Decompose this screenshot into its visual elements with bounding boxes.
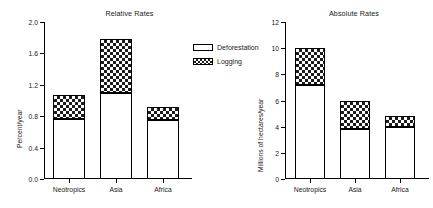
legend-swatch-deforestation-icon [193, 44, 213, 51]
y-axis-tick-label: 1.2 [29, 81, 38, 88]
y-axis-line-right [285, 22, 286, 179]
y-axis-tick-label: 2 [275, 149, 279, 156]
x-axis-category-label: Neotropics [294, 186, 327, 193]
y-axis-tick [281, 127, 285, 128]
legend-label-deforestation: Deforestation [217, 44, 259, 51]
bar-segment-logging [295, 48, 325, 85]
y-axis-line-left [44, 22, 45, 179]
bar-segment-logging [340, 101, 370, 130]
bar-segment-deforestation [53, 119, 85, 179]
bar-segment-deforestation [385, 127, 415, 179]
x-axis-tick [163, 179, 164, 183]
plot-area-right: 024681012NeotropicsAsiaAfrica [285, 22, 425, 179]
legend-label-logging: Logging [217, 58, 242, 65]
chart-title-left: Relative Rates [0, 9, 237, 18]
chart-panel-absolute-rates: Absolute Rates Millions of hectares/year… [215, 0, 433, 208]
y-axis-tick-label: 0 [275, 176, 279, 183]
bar-africa [147, 107, 179, 179]
x-axis-category-label: Africa [391, 186, 408, 193]
x-axis-category-label: Africa [154, 186, 171, 193]
x-axis-tick [116, 179, 117, 183]
y-axis-tick [281, 22, 285, 23]
y-axis-tick-label: 0.8 [29, 113, 38, 120]
figure-stacked-bar-charts: Relative Rates Percent/year 0.00.40.81.2… [0, 0, 433, 208]
bar-segment-logging [385, 116, 415, 127]
chart-panel-relative-rates: Relative Rates Percent/year 0.00.40.81.2… [0, 0, 215, 208]
y-axis-tick [40, 116, 44, 117]
y-axis-tick [40, 22, 44, 23]
chart-legend: Deforestation Logging [193, 42, 259, 70]
bar-segment-logging [53, 95, 85, 119]
y-axis-tick-label: 10 [271, 45, 279, 52]
bar-africa [385, 116, 415, 179]
y-axis-tick [40, 179, 44, 180]
x-axis-category-label: Neotropics [53, 186, 86, 193]
bar-segment-deforestation [100, 93, 132, 179]
plot-area-left: 0.00.40.81.21.62.0NeotropicsAsiaAfrica [44, 22, 188, 179]
bar-segment-logging [100, 39, 132, 93]
y-axis-tick [40, 53, 44, 54]
x-axis-tick [310, 179, 311, 183]
x-axis-category-label: Asia [109, 186, 122, 193]
bar-asia [340, 101, 370, 180]
x-axis-tick [355, 179, 356, 183]
bar-segment-deforestation [340, 129, 370, 179]
x-axis-tick [69, 179, 70, 183]
y-axis-tick [40, 85, 44, 86]
y-axis-tick-label: 4 [275, 123, 279, 130]
legend-swatch-logging-icon [193, 58, 213, 65]
legend-item-deforestation: Deforestation [193, 42, 259, 53]
y-axis-label-right: Millions of hectares/year [257, 99, 264, 172]
y-axis-label-left: Percent/year [16, 109, 23, 148]
y-axis-tick-label: 1.6 [29, 50, 38, 57]
y-axis-tick-label: 8 [275, 71, 279, 78]
y-axis-tick-label: 12 [271, 19, 279, 26]
x-axis-tick [400, 179, 401, 183]
y-axis-tick [40, 148, 44, 149]
bar-neotropics [53, 95, 85, 179]
y-axis-tick-label: 0.0 [29, 176, 38, 183]
y-axis-tick [281, 101, 285, 102]
y-axis-tick-label: 2.0 [29, 19, 38, 26]
chart-title-right: Absolute Rates [215, 9, 433, 18]
y-axis-tick [281, 74, 285, 75]
y-axis-tick [281, 179, 285, 180]
bar-neotropics [295, 48, 325, 179]
y-axis-tick [281, 48, 285, 49]
bar-asia [100, 39, 132, 180]
legend-item-logging: Logging [193, 56, 259, 67]
bar-segment-logging [147, 107, 179, 120]
y-axis-tick [281, 153, 285, 154]
bar-segment-deforestation [147, 120, 179, 179]
y-axis-tick-label: 6 [275, 97, 279, 104]
y-axis-tick-label: 0.4 [29, 144, 38, 151]
x-axis-category-label: Asia [348, 186, 361, 193]
bar-segment-deforestation [295, 85, 325, 179]
